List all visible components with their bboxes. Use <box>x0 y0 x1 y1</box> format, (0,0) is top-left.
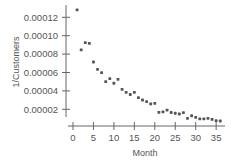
y-axis-label: 1/Customers <box>11 36 21 88</box>
data-point <box>166 109 169 112</box>
y-tick-label: 0.00006 <box>24 67 58 78</box>
data-point <box>80 49 83 52</box>
y-tick-label: 0.00010 <box>24 30 58 41</box>
data-point <box>96 68 99 71</box>
data-point <box>198 118 201 121</box>
x-axis-label: Month <box>132 148 157 158</box>
data-point <box>129 93 132 96</box>
y-tick-label: 0.00004 <box>24 85 58 96</box>
data-point <box>149 103 152 106</box>
data-point <box>202 118 205 121</box>
data-point <box>145 100 148 103</box>
y-axis: 0.000020.000040.000060.000080.000100.000… <box>24 5 70 117</box>
data-point <box>190 114 193 117</box>
data-point <box>113 82 116 85</box>
y-tick-label: 0.00012 <box>24 12 58 23</box>
data-point <box>84 41 87 44</box>
data-point <box>76 9 79 12</box>
data-point <box>133 91 136 94</box>
data-point <box>186 117 189 120</box>
data-point <box>137 96 140 99</box>
data-point <box>162 111 165 114</box>
x-tick-label: 30 <box>190 132 201 143</box>
scatter-chart: 0.000020.000040.000060.000080.000100.000… <box>0 0 231 168</box>
y-tick-label: 0.00002 <box>24 104 58 115</box>
x-tick-label: 5 <box>91 132 96 143</box>
data-points <box>76 9 222 123</box>
data-point <box>207 117 210 120</box>
data-point <box>141 99 144 102</box>
x-tick-label: 0 <box>70 132 75 143</box>
data-point <box>88 42 91 45</box>
data-point <box>125 91 128 94</box>
data-point <box>153 102 156 105</box>
data-point <box>174 112 177 115</box>
x-tick-label: 20 <box>150 132 161 143</box>
data-point <box>178 113 181 116</box>
x-axis: 05101520253035 <box>68 122 225 143</box>
data-point <box>121 88 124 91</box>
data-point <box>104 80 107 83</box>
data-point <box>92 61 95 64</box>
data-point <box>211 118 214 121</box>
data-point <box>170 111 173 114</box>
data-point <box>100 71 103 74</box>
x-tick-label: 25 <box>170 132 181 143</box>
data-point <box>182 111 185 114</box>
data-point <box>157 111 160 114</box>
x-tick-label: 15 <box>129 132 140 143</box>
x-tick-label: 35 <box>211 132 222 143</box>
data-point <box>117 78 120 81</box>
data-point <box>215 119 218 122</box>
y-tick-label: 0.00008 <box>24 48 58 59</box>
data-point <box>219 120 222 123</box>
data-point <box>108 77 111 80</box>
x-tick-label: 10 <box>109 132 120 143</box>
data-point <box>194 116 197 119</box>
